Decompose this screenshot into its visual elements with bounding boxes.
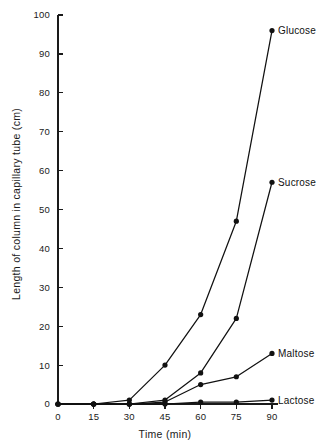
data-point-lactose: [269, 398, 274, 403]
x-tick-label: 75: [231, 411, 242, 422]
data-point-maltose: [198, 382, 203, 387]
data-point-maltose: [234, 374, 239, 379]
data-point-lactose: [127, 401, 132, 406]
data-point-lactose: [162, 401, 167, 406]
x-tick-label: 0: [55, 411, 60, 422]
data-point-lactose: [234, 399, 239, 404]
y-tick-label: 100: [34, 9, 50, 20]
data-point-glucose: [234, 219, 239, 224]
series-label-maltose: Maltose: [278, 348, 315, 359]
data-point-glucose: [269, 28, 274, 33]
series-label-glucose: Glucose: [278, 25, 316, 36]
x-tick-label: 30: [124, 411, 135, 422]
y-tick-label: 40: [39, 243, 50, 254]
data-point-maltose: [269, 351, 274, 356]
y-tick-label: 30: [39, 282, 50, 293]
y-tick-label: 10: [39, 360, 50, 371]
x-tick-label: 45: [160, 411, 171, 422]
data-point-glucose: [162, 363, 167, 368]
data-point-sucrose: [269, 180, 274, 185]
x-tick-label: 90: [267, 411, 278, 422]
x-tick-label: 15: [88, 411, 99, 422]
data-point-lactose: [198, 399, 203, 404]
series-label-lactose: Lactose: [278, 395, 315, 406]
y-tick-label: 20: [39, 321, 50, 332]
series-label-sucrose: Sucrose: [278, 177, 316, 188]
y-tick-label: 80: [39, 87, 50, 98]
data-point-lactose: [55, 401, 60, 406]
chart-figure: 0102030405060708090100 0153045607590 Glu…: [0, 0, 330, 444]
y-tick-label: 50: [39, 204, 50, 215]
y-tick-label: 60: [39, 165, 50, 176]
data-point-sucrose: [198, 370, 203, 375]
y-axis-title: Length of column in capillary tube (cm): [10, 108, 22, 300]
data-point-lactose: [91, 401, 96, 406]
data-point-glucose: [198, 312, 203, 317]
line-chart: 0102030405060708090100 0153045607590 Glu…: [0, 0, 330, 444]
y-tick-label: 0: [45, 398, 50, 409]
chart-background: [0, 0, 330, 444]
y-tick-label: 90: [39, 48, 50, 59]
x-tick-label: 60: [195, 411, 206, 422]
data-point-sucrose: [234, 316, 239, 321]
x-axis-title: Time (min): [139, 428, 192, 440]
y-tick-label: 70: [39, 126, 50, 137]
